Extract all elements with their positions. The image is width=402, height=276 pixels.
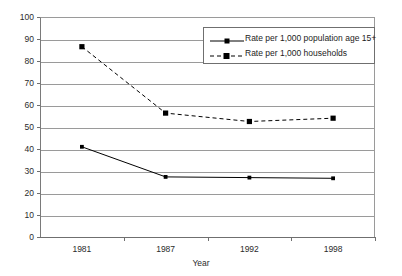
line-chart: 1009080706050403020100 1981198719921998 … xyxy=(0,0,402,276)
legend-item: Rate per 1,000 population age 15+ xyxy=(204,31,374,46)
data-point-marker xyxy=(164,175,168,179)
data-point-marker xyxy=(331,116,336,121)
chart-legend: Rate per 1,000 population age 15+ Rate p… xyxy=(203,27,375,64)
data-point-marker xyxy=(247,119,252,124)
legend-key-solid-diamond xyxy=(209,33,245,45)
legend-item: Rate per 1,000 households xyxy=(204,46,374,61)
legend-key-dashed-square xyxy=(209,48,245,60)
data-point-marker xyxy=(163,111,168,116)
data-point-marker xyxy=(80,145,84,149)
legend-label: Rate per 1,000 population age 15+ xyxy=(245,34,376,43)
series-line xyxy=(82,147,333,179)
data-point-marker xyxy=(79,44,84,49)
data-point-marker xyxy=(331,176,335,180)
legend-label: Rate per 1,000 households xyxy=(245,49,347,58)
data-point-marker xyxy=(248,176,252,180)
